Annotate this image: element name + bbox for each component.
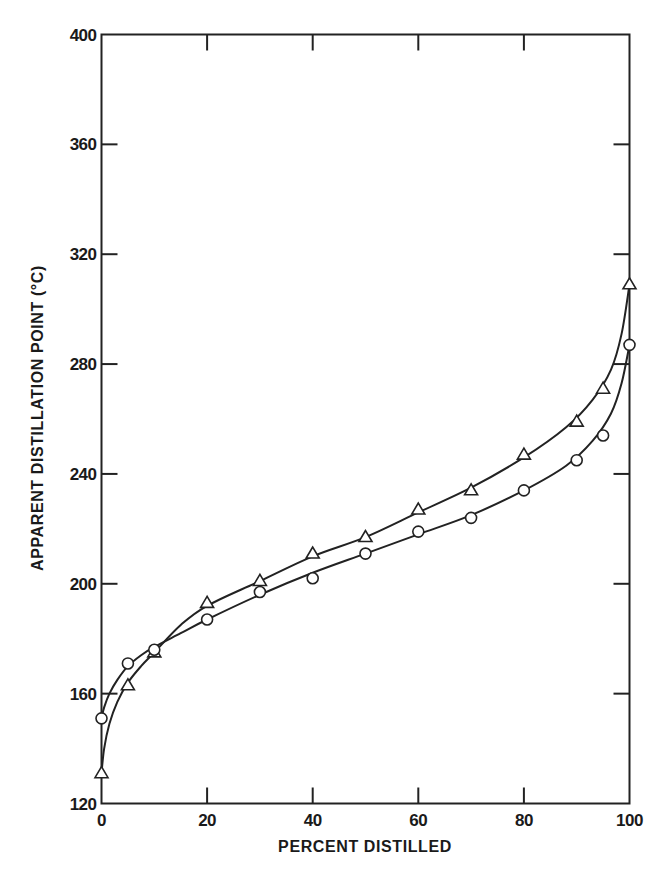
plot-frame (102, 35, 630, 804)
circle-marker (571, 455, 582, 466)
circle-marker (518, 485, 529, 496)
x-tick-label: 100 (616, 811, 643, 830)
triangle-marker (597, 382, 610, 393)
circle-marker (202, 614, 213, 625)
y-tick-label: 400 (70, 26, 97, 45)
y-tick-label: 360 (70, 135, 97, 154)
y-tick-label: 120 (70, 795, 97, 814)
y-tick-label: 160 (70, 685, 97, 704)
circle-marker (624, 339, 635, 350)
triangle-marker (623, 278, 636, 289)
chart-svg: 020406080100120160200240280320360400 PER… (0, 0, 669, 892)
circle-marker (598, 430, 609, 441)
x-tick-label: 60 (409, 811, 427, 830)
x-tick-label: 40 (304, 811, 322, 830)
triangle-marker (121, 679, 134, 690)
x-tick-label: 80 (515, 811, 533, 830)
circle-marker (466, 512, 477, 523)
circle-marker (413, 526, 424, 537)
data-markers (95, 278, 636, 778)
circle-marker (122, 658, 133, 669)
axis-ticks (102, 35, 630, 804)
triangle-marker (201, 596, 214, 607)
y-axis-title: APPARENT DISTILLATION POINT (°C) (29, 265, 46, 571)
x-tick-label: 0 (97, 811, 106, 830)
triangle-marker (306, 547, 319, 558)
circle-marker (149, 644, 160, 655)
y-tick-label: 240 (70, 465, 97, 484)
triangle-marker (412, 503, 425, 514)
fit-curve-triangles (102, 284, 630, 773)
circle-marker (360, 548, 371, 559)
distillation-chart: 020406080100120160200240280320360400 PER… (0, 0, 669, 892)
circle-marker (96, 713, 107, 724)
circle-marker (254, 587, 265, 598)
y-tick-label: 280 (70, 355, 97, 374)
axis-tick-labels: 020406080100120160200240280320360400 (70, 26, 643, 830)
y-tick-label: 320 (70, 245, 97, 264)
y-tick-label: 200 (70, 575, 97, 594)
fit-curves (102, 284, 630, 773)
x-axis-title: PERCENT DISTILLED (278, 838, 452, 855)
circle-marker (307, 573, 318, 584)
triangle-marker (95, 767, 108, 778)
x-tick-label: 20 (198, 811, 216, 830)
